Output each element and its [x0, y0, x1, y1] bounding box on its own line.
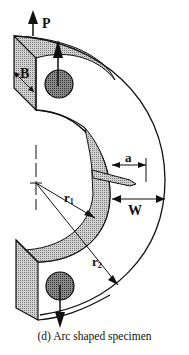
label-p: P	[42, 16, 51, 31]
label-r1: r1	[64, 190, 74, 206]
pin-arrow-down-icon	[55, 312, 65, 328]
label-r2: r2	[92, 254, 102, 270]
load-arrow-up-icon	[28, 10, 38, 24]
r2-arrow-icon	[108, 275, 118, 285]
figure-caption: (d) Arc shaped specimen	[0, 330, 189, 342]
label-w: W	[128, 203, 142, 218]
label-a: a	[125, 150, 132, 165]
label-b: B	[20, 66, 29, 81]
top-pin-hole	[45, 70, 73, 98]
arc-specimen-diagram: P B a W r1 r2	[0, 0, 189, 355]
